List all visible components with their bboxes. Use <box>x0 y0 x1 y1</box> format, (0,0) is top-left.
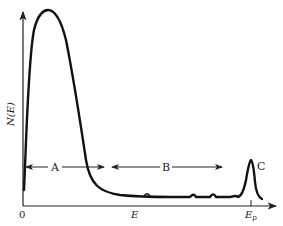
ep-label: Ep <box>244 209 257 222</box>
region-b-label: B <box>162 161 170 174</box>
energy-distribution-chart: A B C N(E) 0 E Ep <box>0 0 283 226</box>
distribution-curve <box>24 10 262 199</box>
chart-svg: A B C N(E) 0 E Ep <box>0 0 283 226</box>
peak-c-label: C <box>257 160 265 173</box>
origin-label: 0 <box>19 209 25 220</box>
ep-label-sub: p <box>252 214 257 222</box>
region-a-label: A <box>50 161 60 174</box>
x-axis-label: E <box>130 209 139 220</box>
y-axis-label: N(E) <box>5 102 16 127</box>
